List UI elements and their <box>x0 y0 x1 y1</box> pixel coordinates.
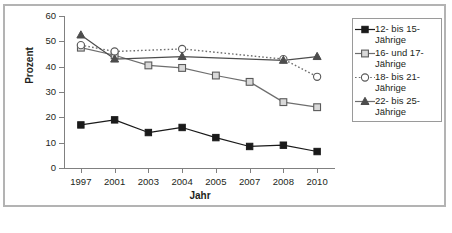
data-point-filled-square <box>362 26 368 32</box>
y-axis-title: Prozent <box>24 21 35 111</box>
y-tick-label: 20 <box>16 112 56 121</box>
y-tick-label: 40 <box>16 62 56 71</box>
x-axis-line <box>64 168 335 169</box>
data-point-open-circle <box>314 73 321 80</box>
data-point-open-square <box>362 50 369 57</box>
x-tick-mark <box>81 169 82 173</box>
x-tick-mark <box>115 169 116 173</box>
data-point-filled-triangle <box>77 31 85 38</box>
data-point-open-square <box>212 72 219 79</box>
y-tick-label: 50 <box>16 36 56 45</box>
legend-marker-filled-square <box>355 24 375 35</box>
y-tick-label: 60 <box>16 11 56 20</box>
chart-legend: 12- bis 15-Jährige16- und 17-Jährige18- … <box>352 18 442 122</box>
y-tick-label: 10 <box>16 138 56 147</box>
x-axis-title: Jahr <box>0 190 400 201</box>
data-point-open-circle <box>77 42 84 49</box>
legend-item-3[interactable]: 22- bis 25-Jährige <box>355 95 438 117</box>
y-tick-label: 0 <box>16 163 56 172</box>
x-tick-mark <box>283 169 284 173</box>
data-point-filled-triangle <box>178 52 186 59</box>
legend-marker-filled-triangle <box>355 96 375 107</box>
legend-item-1[interactable]: 16- und 17-Jährige <box>355 47 438 69</box>
data-point-open-square <box>179 65 186 72</box>
legend-item-label: 16- und 17-Jährige <box>375 47 424 69</box>
legend-marker-open-circle <box>355 72 375 83</box>
legend-item-label: 12- bis 15-Jährige <box>375 23 420 45</box>
data-point-open-square <box>145 62 152 69</box>
legend-item-label: 18- bis 21-Jährige <box>375 71 420 93</box>
legend-item-0[interactable]: 12- bis 15-Jährige <box>355 23 438 45</box>
legend-item-2[interactable]: 18- bis 21-Jährige <box>355 71 438 93</box>
x-tick-mark <box>216 169 217 173</box>
legend-marker-open-square <box>355 48 375 59</box>
chart-figure: 0102030405060 19972001200320042005200720… <box>0 0 452 233</box>
data-point-filled-square <box>213 134 219 140</box>
data-point-open-square <box>246 78 253 85</box>
data-point-filled-square <box>280 142 286 148</box>
data-point-filled-square <box>314 148 320 154</box>
data-point-open-circle <box>361 74 368 81</box>
data-point-open-square <box>280 99 287 106</box>
y-tick-mark <box>59 168 64 169</box>
data-point-filled-square <box>78 122 84 128</box>
x-tick-mark <box>250 169 251 173</box>
data-point-filled-square <box>179 124 185 130</box>
x-tick-mark <box>317 169 318 173</box>
y-tick-label: 30 <box>16 87 56 96</box>
data-point-filled-square <box>111 117 117 123</box>
data-point-filled-square <box>145 129 151 135</box>
x-tick-mark <box>182 169 183 173</box>
data-point-filled-square <box>246 143 252 149</box>
x-tick-label: 2010 <box>297 176 337 187</box>
data-point-filled-triangle <box>313 52 321 59</box>
x-tick-mark <box>148 169 149 173</box>
legend-item-label: 22- bis 25-Jährige <box>375 95 420 117</box>
data-point-open-square <box>314 104 321 111</box>
plot-series-layer <box>64 16 334 168</box>
